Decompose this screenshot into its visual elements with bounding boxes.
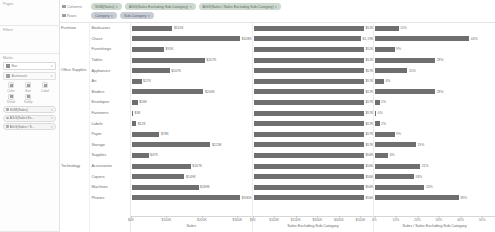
bar[interactable] (132, 142, 210, 147)
bar-row[interactable]: 2% (375, 118, 495, 129)
marks-button-size[interactable]: Size (20, 82, 36, 93)
bar[interactable] (254, 68, 364, 73)
bar[interactable] (132, 89, 203, 94)
bar-row[interactable]: 2% (375, 97, 495, 108)
bar-row[interactable]: $149K (132, 171, 252, 182)
bar-row[interactable]: 9% (375, 129, 495, 140)
bar[interactable] (375, 79, 384, 84)
bar-row[interactable]: $107K (132, 65, 252, 76)
sub-category-header-cell[interactable]: Furnishings (90, 44, 130, 55)
bar[interactable] (375, 47, 394, 52)
bar[interactable] (375, 89, 435, 94)
category-header-cell[interactable]: Furniture (61, 26, 76, 30)
bar[interactable] (375, 142, 416, 147)
bar-row[interactable]: 6% (375, 150, 495, 161)
bar[interactable] (375, 68, 407, 73)
bar-row[interactable]: $223K (132, 140, 252, 151)
bar[interactable] (375, 111, 376, 116)
bar-row[interactable]: $91K (132, 44, 252, 55)
bar-row[interactable]: 0% (375, 108, 495, 119)
bar-row[interactable]: 9% (375, 44, 495, 55)
bar-row[interactable]: $78K (132, 129, 252, 140)
bar[interactable] (375, 26, 399, 31)
bar-row[interactable]: 19% (375, 140, 495, 151)
bar[interactable] (375, 174, 413, 179)
bar[interactable] (254, 47, 364, 52)
bar[interactable] (254, 79, 364, 84)
bar[interactable] (132, 79, 142, 84)
sub-category-header-cell[interactable]: Copiers (90, 171, 130, 182)
marks-button-label[interactable]: Label (37, 82, 53, 93)
sub-category-header-cell[interactable]: Chairs (90, 34, 130, 45)
bar[interactable] (254, 195, 364, 200)
marks-automatic-row[interactable]: Automatic ▾ (3, 72, 56, 80)
marks-button-tooltip[interactable]: Tooltip (20, 94, 36, 105)
columns-pill[interactable]: SUM(Sales) ▾ (91, 3, 122, 10)
bar[interactable] (254, 26, 364, 31)
bar[interactable] (132, 185, 199, 190)
bar-row[interactable]: $189K (132, 182, 252, 193)
bar[interactable] (132, 174, 184, 179)
bar-row[interactable]: 21% (375, 161, 495, 172)
bar-row[interactable]: 4% (375, 76, 495, 87)
sub-category-header-cell[interactable]: Fasteners (90, 108, 130, 119)
bar-row[interactable]: $1.19K (254, 34, 374, 45)
columns-pill[interactable]: AGG(Sales / Sales Excluding Sub-Category… (199, 3, 282, 10)
bar-row[interactable]: $167K (132, 161, 252, 172)
columns-pill[interactable]: AGG(Sales Excluding Sub-Category) ▾ (125, 3, 196, 10)
bar-row[interactable]: $57K (254, 87, 374, 98)
bar[interactable] (375, 164, 420, 169)
bar-row[interactable]: $52K (254, 23, 374, 34)
bar[interactable] (375, 185, 424, 190)
bar[interactable] (132, 26, 172, 31)
sub-category-header-cell[interactable]: Accessories (90, 161, 130, 172)
columns-shelf[interactable]: Columns SUM(Sales) ▾ AGG(Sales Excluding… (62, 2, 492, 11)
bar-row[interactable]: $56K (254, 171, 374, 182)
bar[interactable] (254, 132, 364, 137)
bar[interactable] (375, 58, 435, 63)
bar[interactable] (254, 111, 364, 116)
bar[interactable] (375, 100, 379, 105)
bar-row[interactable]: $56K (254, 193, 374, 204)
bar[interactable] (375, 36, 469, 41)
bar[interactable] (132, 132, 159, 137)
bar[interactable] (375, 121, 379, 126)
bar-row[interactable]: $52K (254, 55, 374, 66)
bar-row[interactable]: $330K (132, 193, 252, 204)
bar[interactable] (132, 47, 164, 52)
bar[interactable] (132, 164, 191, 169)
bar-row[interactable]: $57K (254, 129, 374, 140)
bar[interactable] (254, 153, 364, 158)
bar-row[interactable]: 11% (375, 23, 495, 34)
marks-pill[interactable]: SUM(Sales) ▾ (3, 106, 56, 113)
category-header-cell[interactable]: Office Supplies (61, 68, 86, 72)
marks-pill[interactable]: AGG(Sales / S... ▾ (3, 123, 56, 130)
bar-row[interactable]: 23% (375, 182, 495, 193)
sub-category-header-cell[interactable]: Binders (90, 87, 130, 98)
bar-row[interactable]: 28% (375, 55, 495, 66)
bar[interactable] (132, 36, 240, 41)
bar[interactable] (375, 153, 388, 158)
bar[interactable] (254, 142, 364, 147)
bar[interactable] (254, 36, 361, 41)
sub-category-header-cell[interactable]: Machines (90, 182, 130, 193)
sub-category-header-cell[interactable]: Appliances (90, 65, 130, 76)
bar-row[interactable]: $57K (254, 140, 374, 151)
sub-category-header-cell[interactable]: Envelopes (90, 97, 130, 108)
bar-row[interactable]: $207K (132, 55, 252, 66)
bar[interactable] (132, 195, 240, 200)
sub-category-header-cell[interactable]: Supplies (90, 150, 130, 161)
bar[interactable] (254, 89, 364, 94)
bar-row[interactable]: $16K (132, 97, 252, 108)
rows-pill[interactable]: Sub-Category ▾ (120, 12, 154, 19)
sub-category-header-cell[interactable]: Phones (90, 193, 130, 204)
bar[interactable] (254, 121, 364, 126)
sub-category-header-cell[interactable]: Storage (90, 140, 130, 151)
bar[interactable] (132, 100, 138, 105)
bar-row[interactable]: $328K (132, 34, 252, 45)
bar-row[interactable]: $57K (254, 76, 374, 87)
bar-row[interactable]: 15% (375, 65, 495, 76)
bar-row[interactable]: $57K (254, 118, 374, 129)
bar-row[interactable]: 18% (375, 171, 495, 182)
bar-row[interactable]: $3K (132, 108, 252, 119)
